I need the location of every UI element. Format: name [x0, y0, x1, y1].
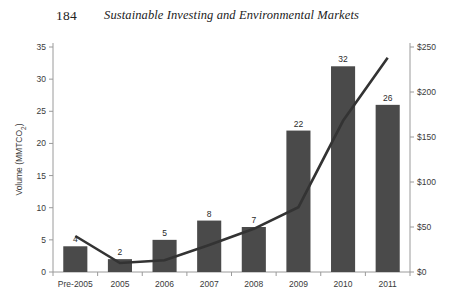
- running-head: 184 Sustainable Investing and Environmen…: [0, 8, 463, 28]
- page-canvas: 184 Sustainable Investing and Environmen…: [0, 0, 463, 306]
- bar-data-label: 4: [73, 234, 78, 244]
- figure-chart: 05101520253035 $0$50$100$150$200$250 Pre…: [0, 36, 463, 306]
- chart-plot-area: 05101520253035 $0$50$100$150$200$250 Pre…: [14, 42, 436, 289]
- bar-data-label: 26: [383, 93, 393, 103]
- category-axis-label: 2005: [110, 279, 129, 289]
- bar: [108, 259, 132, 272]
- bar-data-label: 22: [294, 119, 304, 129]
- bar: [331, 66, 355, 272]
- bar: [286, 131, 310, 272]
- bar: [153, 240, 177, 272]
- left-axis-tick-label: 15: [37, 171, 47, 181]
- bar-data-label: 5: [162, 228, 167, 238]
- left-value-axis: 05101520253035: [37, 42, 53, 277]
- running-title: Sustainable Investing and Environmental …: [0, 8, 463, 23]
- category-axis-label: 2009: [289, 279, 308, 289]
- right-axis-tick-label: $200: [417, 87, 436, 97]
- left-axis-tick-label: 0: [41, 267, 46, 277]
- left-axis-tick-label: 30: [37, 74, 47, 84]
- right-axis-tick-label: $100: [417, 177, 436, 187]
- bar-data-label: 8: [207, 209, 212, 219]
- right-axis-tick-label: $0: [417, 267, 427, 277]
- bar-data-label: 32: [338, 54, 348, 64]
- right-axis-tick-label: $250: [417, 42, 436, 52]
- left-axis-tick-label: 5: [41, 235, 46, 245]
- category-axis-label: 2006: [155, 279, 174, 289]
- left-axis-tick-label: 25: [37, 106, 47, 116]
- y-axis-title: Volume (MMTCO2): [14, 123, 27, 195]
- left-axis-tick-label: 10: [37, 203, 47, 213]
- category-axis-label: 2008: [244, 279, 263, 289]
- right-axis-tick-label: $50: [417, 222, 431, 232]
- bar-data-label: 2: [118, 247, 123, 257]
- category-axis: Pre-20052005200620072008200920102011: [53, 272, 410, 289]
- left-axis-tick-label: 20: [37, 138, 47, 148]
- bar: [376, 105, 400, 272]
- bar: [63, 246, 87, 272]
- bar-data-label: 7: [251, 215, 256, 225]
- category-axis-label: 2011: [379, 279, 398, 289]
- category-axis-label: Pre-2005: [58, 279, 93, 289]
- category-axis-label: 2007: [200, 279, 219, 289]
- y-axis-title-label: Volume (MMTCO2): [14, 123, 27, 195]
- right-value-axis: $0$50$100$150$200$250: [410, 42, 436, 277]
- right-axis-tick-label: $150: [417, 132, 436, 142]
- chart-canvas: 05101520253035 $0$50$100$150$200$250 Pre…: [0, 36, 463, 306]
- bar-series: [63, 66, 399, 272]
- category-axis-label: 2010: [334, 279, 353, 289]
- bar: [242, 227, 266, 272]
- left-axis-tick-label: 35: [37, 42, 47, 52]
